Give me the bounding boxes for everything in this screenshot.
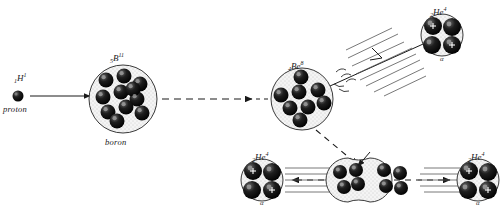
helium-4-top-right — [421, 14, 463, 56]
nuclear-reaction-diagram: 1H1 proton 5B11 boron 4Be8 2He4 α 2He4 α… — [0, 0, 502, 208]
boron-caption: boron — [105, 137, 127, 147]
boron-isotope-label: 5B11 — [110, 52, 124, 64]
proton-particle — [13, 91, 24, 102]
proton-isotope-label: 1H1 — [14, 72, 27, 84]
speed-lines-top-right — [346, 28, 426, 96]
ejection-arc-marks — [334, 69, 356, 92]
beryllium-8-splitting — [326, 138, 408, 208]
alpha-label-bottom-right: α — [476, 199, 480, 207]
helium-4-bottom-right — [457, 159, 499, 201]
beryllium-isotope-label: 4Be8 — [288, 60, 304, 72]
helium-bottom-left-isotope-label: 2He4 — [252, 151, 269, 163]
speed-lines-bottom-right — [418, 168, 460, 192]
helium-bottom-right-isotope-label: 2He4 — [468, 151, 485, 163]
helium-top-right-isotope-label: 2He4 — [430, 6, 447, 18]
boron-11-nucleus — [89, 65, 157, 133]
diagram-canvas — [0, 0, 502, 208]
helium-4-bottom-left — [241, 159, 283, 201]
proton-caption: proton — [3, 104, 27, 114]
alpha-label-bottom-left: α — [260, 199, 264, 207]
alpha-label-top-right: α — [440, 55, 444, 63]
beryllium-8-nucleus — [271, 68, 333, 130]
